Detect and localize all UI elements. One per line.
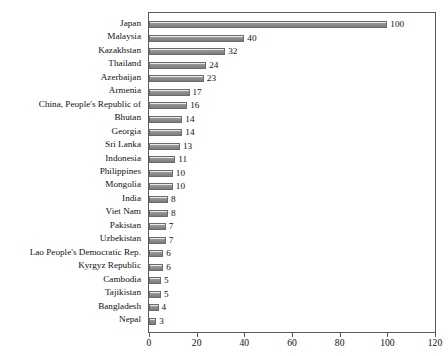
bar-value-label: 10 [176,168,185,179]
category-label: Azerbaijan [0,73,141,82]
category-label: Lao People's Democratic Rep. [0,248,141,257]
bar-value-label: 32 [228,46,237,57]
x-tick-label: 0 [147,337,152,348]
bar-value-label: 7 [169,235,174,246]
bar-value-label: 8 [171,194,176,205]
bar-value-label: 10 [176,181,185,192]
bar-row: 5 [149,277,437,284]
bar [149,318,156,325]
bar-row: 16 [149,102,437,109]
x-tick-label: 20 [192,337,202,348]
category-label: Georgia [0,127,141,136]
bar [149,277,161,284]
category-label: Thailand [0,59,141,68]
category-label: Nepal [0,315,141,324]
x-tick-label: 120 [428,337,442,348]
bar [149,116,182,123]
bar [149,102,187,109]
bar [149,75,204,82]
bar-value-label: 16 [190,100,199,111]
x-tick-label: 100 [380,337,394,348]
bar-value-label: 4 [162,302,167,313]
category-label: Mongolia [0,180,141,189]
category-label: Bangladesh [0,302,141,311]
bar [149,35,244,42]
bar-value-label: 13 [183,141,192,152]
category-label: Bhutan [0,113,141,122]
x-axis: 020406080100120 [148,333,436,356]
bar-value-label: 8 [171,208,176,219]
bar-row: 6 [149,250,437,257]
x-tick-label: 40 [240,337,250,348]
bar-row: 11 [149,156,437,163]
category-axis: JapanMalaysiaKazakhstanThailandAzerbaija… [0,12,145,333]
plot-area: 1004032242317161414131110108877665543 [148,12,436,333]
bar [149,129,182,136]
x-tick-label: 80 [335,337,345,348]
bar-value-label: 24 [209,60,218,71]
bar [149,196,168,203]
bar-value-label: 7 [169,221,174,232]
bar-value-label: 17 [193,87,202,98]
bar-row: 14 [149,129,437,136]
category-label: Philippines [0,167,141,176]
bar-value-label: 6 [166,262,171,273]
bar-value-label: 40 [247,33,256,44]
category-label: Tajikistan [0,288,141,297]
chart-title [0,0,448,3]
bar [149,291,161,298]
category-label: Malaysia [0,32,141,41]
bar-row: 40 [149,35,437,42]
bar [149,48,225,55]
bar-row: 4 [149,304,437,311]
bar-row: 10 [149,170,437,177]
category-label: Viet Nam [0,207,141,216]
bar [149,21,387,28]
bar-row: 100 [149,21,437,28]
bar-value-label: 3 [159,316,164,327]
bar-row: 6 [149,264,437,271]
category-label: Sri Lanka [0,140,141,149]
category-label: Armenia [0,86,141,95]
category-label: India [0,194,141,203]
bar-value-label: 11 [178,154,187,165]
bar [149,304,159,311]
bar-value-label: 5 [164,289,169,300]
bar-row: 32 [149,48,437,55]
bar-row: 10 [149,183,437,190]
bar [149,143,180,150]
bar-value-label: 6 [166,248,171,259]
bar [149,264,163,271]
bar-row: 3 [149,318,437,325]
category-label: Cambodia [0,275,141,284]
bar-chart: JapanMalaysiaKazakhstanThailandAzerbaija… [0,0,448,356]
bar [149,237,166,244]
bar-value-label: 14 [185,127,194,138]
bar-row: 14 [149,116,437,123]
bar-value-label: 23 [207,73,216,84]
bar-row: 24 [149,62,437,69]
category-label: Kyrgyz Republic [0,261,141,270]
bar-value-label: 5 [164,275,169,286]
category-label: China, People's Republic of [0,100,141,109]
bar [149,170,173,177]
bar-row: 7 [149,223,437,230]
x-tick-label: 60 [287,337,297,348]
category-label: Kazakhstan [0,46,141,55]
bar-row: 7 [149,237,437,244]
bar-row: 8 [149,196,437,203]
bar-row: 13 [149,143,437,150]
bar [149,183,173,190]
bar [149,89,190,96]
bar [149,62,206,69]
bar-row: 23 [149,75,437,82]
category-label: Japan [0,19,141,28]
bar-value-label: 100 [390,19,404,30]
category-label: Uzbekistan [0,234,141,243]
bar [149,156,175,163]
bar-row: 8 [149,210,437,217]
category-label: Pakistan [0,221,141,230]
bar [149,210,168,217]
category-label: Indonesia [0,154,141,163]
bar [149,250,163,257]
